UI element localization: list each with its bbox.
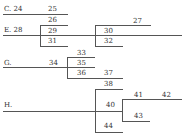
label-37: 37 [104, 69, 113, 77]
line-e [3, 35, 41, 36]
bracket-27 [95, 25, 96, 46]
line-40 [95, 111, 123, 112]
label-41: 41 [134, 91, 143, 99]
label-31: 31 [48, 37, 57, 45]
line-h [3, 111, 96, 112]
label-h: H. [4, 101, 12, 109]
line-35 [67, 67, 95, 68]
label-42: 42 [162, 91, 171, 99]
label-33: 33 [77, 49, 86, 57]
bracket-41 [122, 99, 123, 121]
label-25: 25 [48, 5, 57, 13]
line-31 [40, 46, 68, 47]
label-43: 43 [134, 112, 143, 120]
line-44 [95, 132, 123, 133]
label-c: C. 24 [4, 5, 22, 13]
line-g [3, 67, 68, 68]
label-27: 27 [133, 17, 142, 25]
line-38 [95, 89, 123, 90]
line-c [3, 14, 68, 15]
label-40: 40 [106, 101, 115, 109]
label-38: 38 [104, 80, 113, 88]
label-44: 44 [104, 122, 113, 130]
label-36: 36 [77, 69, 86, 77]
line-29-ext [40, 35, 182, 36]
line-43 [122, 121, 150, 122]
label-e: E. 28 [4, 26, 22, 34]
label-g: G. [4, 59, 12, 67]
line-41 [122, 99, 182, 100]
line-33 [67, 57, 95, 58]
label-30: 30 [104, 27, 113, 35]
line-36 [67, 78, 123, 79]
line-27 [95, 25, 151, 26]
label-26: 26 [48, 16, 57, 24]
line-32 [95, 46, 123, 47]
label-35: 35 [77, 59, 86, 67]
label-29: 29 [48, 27, 57, 35]
label-32: 32 [104, 37, 113, 45]
label-34: 34 [49, 59, 58, 67]
line-29 [40, 25, 68, 26]
